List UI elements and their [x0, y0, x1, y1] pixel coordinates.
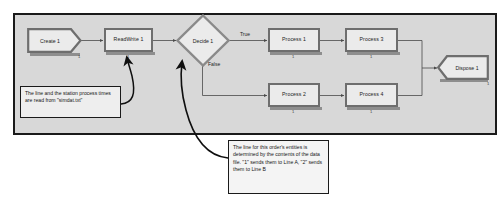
node-process4-label: Process 4	[360, 92, 384, 97]
node-create1-label: Create 1	[40, 38, 60, 44]
shadow-readwrite1	[106, 52, 155, 55]
diagram-scene: Create 1 1 ReadWrite 1 1 Decide 1 True F…	[0, 0, 503, 207]
edge-label-false: False	[208, 61, 220, 67]
node-process1-count: 1	[292, 54, 294, 59]
callout-simdat: The line and the station process times a…	[20, 86, 121, 118]
node-process2-label: Process 2	[282, 92, 306, 97]
node-dispose1-count: 1	[487, 81, 489, 86]
shadow-process1	[270, 52, 322, 55]
node-process3[interactable]: Process 3	[345, 28, 398, 52]
node-process3-count: 1	[370, 54, 372, 59]
node-create1-count: 1	[78, 54, 80, 59]
shadow-process4	[347, 107, 400, 110]
node-process4[interactable]: Process 4	[345, 83, 398, 107]
shadow-process3	[347, 52, 400, 55]
node-readwrite1-label: ReadWrite 1	[114, 37, 144, 42]
callout-line-routing-text: The line for this order's entities is de…	[233, 144, 322, 172]
node-create1[interactable]: Create 1	[27, 28, 82, 53]
node-decide1-label: Decide 1	[193, 38, 213, 44]
node-process1-label: Process 1	[282, 37, 306, 42]
edge-label-true: True	[240, 31, 250, 37]
node-dispose1-label: Dispose 1	[455, 65, 478, 71]
node-dispose1[interactable]: Dispose 1	[437, 55, 489, 80]
node-readwrite1-count: 1	[127, 54, 129, 59]
shadow-process2	[270, 107, 322, 110]
callout-line-routing: The line for this order's entities is de…	[228, 140, 329, 194]
node-readwrite1[interactable]: ReadWrite 1	[104, 28, 153, 52]
callout-simdat-text: The line and the station process times a…	[25, 90, 111, 103]
node-process2[interactable]: Process 2	[268, 83, 320, 107]
shadow-create1	[30, 53, 80, 56]
node-process4-count: 1	[370, 109, 372, 114]
node-process1[interactable]: Process 1	[268, 28, 320, 52]
node-process2-count: 1	[292, 109, 294, 114]
node-decide1[interactable]: Decide 1	[176, 14, 230, 67]
node-process3-label: Process 3	[360, 37, 384, 42]
